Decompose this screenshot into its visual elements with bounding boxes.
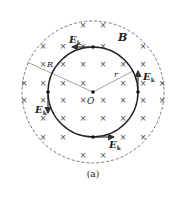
svg-text:Ek: Ek bbox=[68, 34, 82, 46]
svg-text:×: × bbox=[159, 96, 166, 105]
svg-text:×: × bbox=[100, 151, 107, 160]
svg-text:×: × bbox=[140, 96, 147, 105]
svg-text:×: × bbox=[120, 133, 127, 142]
svg-text:×: × bbox=[80, 114, 87, 123]
svg-text:×: × bbox=[80, 21, 87, 30]
svg-text:Ek: Ek bbox=[34, 104, 48, 116]
svg-text:×: × bbox=[100, 42, 107, 51]
svg-text:×: × bbox=[60, 114, 67, 123]
svg-text:×: × bbox=[140, 60, 147, 69]
outer-radius-label: R bbox=[46, 60, 53, 69]
svg-text:×: × bbox=[100, 21, 107, 30]
svg-text:×: × bbox=[140, 133, 147, 142]
svg-text:×: × bbox=[80, 151, 87, 160]
svg-text:×: × bbox=[60, 133, 67, 142]
figure-caption: (a) bbox=[87, 169, 99, 179]
svg-text:×: × bbox=[159, 79, 166, 88]
diagram-canvas: ×××× ××× ×××××× ××××××× ×××××××× ×××××× … bbox=[0, 0, 184, 198]
svg-text:×: × bbox=[80, 60, 87, 69]
field-label: B bbox=[117, 31, 127, 44]
svg-text:×: × bbox=[40, 42, 47, 51]
svg-text:×: × bbox=[100, 60, 107, 69]
svg-text:×: × bbox=[21, 79, 28, 88]
inner-radius-label: r bbox=[114, 70, 119, 79]
svg-text:×: × bbox=[100, 114, 107, 123]
svg-text:Ek: Ek bbox=[142, 71, 156, 83]
svg-text:×: × bbox=[60, 96, 67, 105]
svg-text:×: × bbox=[100, 96, 107, 105]
svg-text:×: × bbox=[40, 133, 47, 142]
svg-text:×: × bbox=[140, 42, 147, 51]
center-label: O bbox=[87, 96, 95, 106]
svg-text:×: × bbox=[120, 114, 127, 123]
svg-text:×: × bbox=[120, 96, 127, 105]
svg-text:×: × bbox=[60, 79, 67, 88]
svg-text:×: × bbox=[60, 42, 67, 51]
svg-text:×: × bbox=[80, 96, 87, 105]
svg-text:×: × bbox=[120, 79, 127, 88]
svg-text:×: × bbox=[21, 96, 28, 105]
inner-radius-line bbox=[93, 71, 133, 92]
svg-text:×: × bbox=[40, 60, 47, 69]
ek-label-right: Ek bbox=[142, 71, 156, 83]
svg-text:×: × bbox=[40, 79, 47, 88]
ek-label-top: Ek bbox=[68, 34, 82, 46]
ek-label-left: Ek bbox=[34, 104, 48, 116]
svg-text:×: × bbox=[140, 114, 147, 123]
